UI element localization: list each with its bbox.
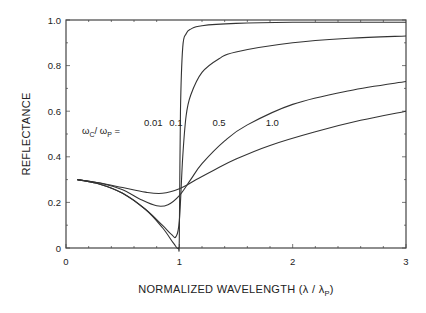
x-axis-title-main: NORMALIZED WAVELENGTH (λ / λ <box>138 283 324 295</box>
series-label-0-1: 0.1 <box>169 117 182 128</box>
x-tick-label: 3 <box>403 256 408 267</box>
y-tick-label: 1.0 <box>48 15 61 26</box>
x-tick-label: 0 <box>63 256 68 267</box>
omega-p: / ω <box>94 125 107 136</box>
y-tick-label: 0 <box>56 243 61 254</box>
x-tick-label: 1 <box>177 256 182 267</box>
series-line-0-5 <box>77 82 406 207</box>
curves-layer <box>77 22 406 251</box>
series-label-0-01: 0.01 <box>144 117 163 128</box>
series-line-0-1 <box>77 36 406 238</box>
y-tick-label: 0.6 <box>48 106 61 117</box>
equals-sign: = <box>112 125 121 136</box>
y-tick-label: 0.2 <box>48 197 61 208</box>
x-axis-title-close: ) <box>330 283 334 295</box>
series-label-1-0: 1.0 <box>266 117 279 128</box>
ticks-layer: 012300.20.40.60.81.0 <box>48 15 409 268</box>
y-axis-title: REFLECTANCE <box>20 92 32 175</box>
x-tick-label: 2 <box>290 256 295 267</box>
series-line-0-01 <box>77 22 406 251</box>
omega-ratio-label: ωC/ ωP = <box>82 125 120 138</box>
y-tick-label: 0.8 <box>48 60 61 71</box>
y-tick-label: 0.4 <box>48 151 61 162</box>
series-line-1-0 <box>77 111 406 193</box>
x-axis-title: NORMALIZED WAVELENGTH (λ / λP) <box>138 283 334 298</box>
series-label-0-5: 0.5 <box>212 117 225 128</box>
chart: 012300.20.40.60.81.0 0.010.10.51.0 REFLE… <box>0 0 426 313</box>
